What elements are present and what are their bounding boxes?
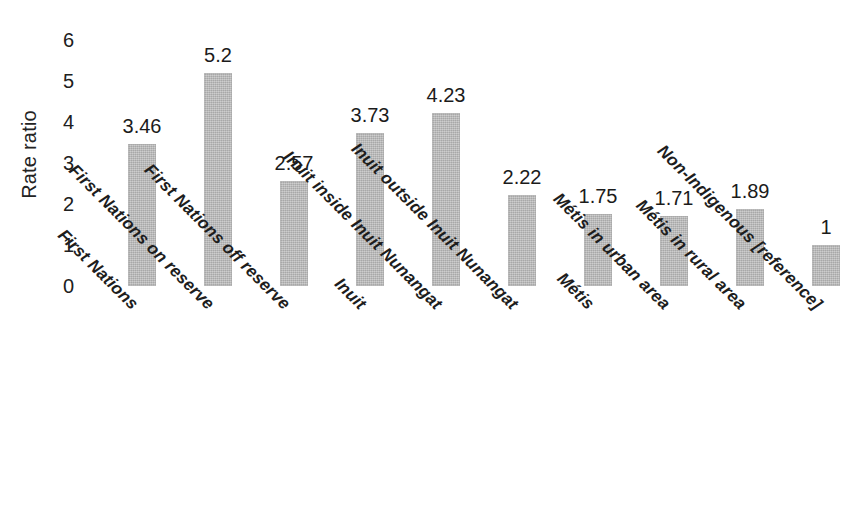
- x-axis-tick-label: First Nations on reserve: [204, 300, 357, 453]
- y-axis-tick-labels: 0123456: [44, 0, 74, 527]
- y-axis-tick-label: 5: [44, 71, 74, 91]
- bar-value-label: 1.89: [731, 181, 770, 201]
- bar-group: 1: [812, 40, 840, 286]
- bar-value-label: 5.2: [204, 45, 232, 65]
- y-axis-title: Rate ratio: [18, 90, 41, 220]
- x-axis-tick-label: Inuit inside Inuit Nunangat: [432, 300, 599, 467]
- x-axis-tick-label: Métis: [584, 300, 629, 345]
- bar-value-label: 3.46: [123, 116, 162, 136]
- y-axis-tick-label: 4: [44, 112, 74, 132]
- bar-value-label: 1.75: [579, 186, 618, 206]
- y-axis-tick-label: 2: [44, 194, 74, 214]
- bar-value-label: 2.22: [503, 167, 542, 187]
- bar-value-label: 3.73: [351, 105, 390, 125]
- x-axis-tick-labels: First NationsFirst Nations on reserveFir…: [86, 286, 846, 527]
- x-axis-tick-label: Inuit: [356, 300, 396, 340]
- y-axis-tick-label: 6: [44, 30, 74, 50]
- bar-value-label: 1: [820, 217, 831, 237]
- bar-group: 2.22: [508, 40, 536, 286]
- bar-value-label: 4.23: [427, 85, 466, 105]
- x-axis-tick-label: First Nations off reserve: [280, 300, 434, 454]
- bar: [280, 181, 308, 286]
- y-axis-tick-label: 0: [44, 276, 74, 296]
- bar: [508, 195, 536, 286]
- bar: [812, 245, 840, 286]
- bar-chart: Rate ratio 0123456 3.465.22.573.734.232.…: [0, 0, 862, 527]
